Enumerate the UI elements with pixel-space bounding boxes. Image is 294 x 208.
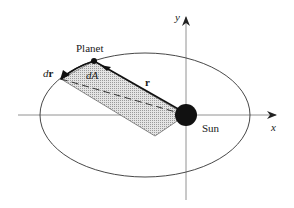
swept-area	[61, 61, 186, 136]
x-axis-label: x	[270, 121, 276, 133]
planet-label: Planet	[76, 42, 104, 54]
dr-label: dr	[43, 67, 54, 79]
sun-label: Sun	[202, 122, 220, 134]
r-label: r	[145, 76, 150, 88]
dr-vector: r	[49, 67, 54, 79]
y-axis-label: y	[174, 11, 180, 23]
planet-dot	[91, 58, 97, 64]
sun	[175, 104, 197, 126]
kepler-orbit-diagram: Planet Sun r dr dA y x	[0, 0, 294, 208]
dA-label: dA	[86, 69, 99, 81]
